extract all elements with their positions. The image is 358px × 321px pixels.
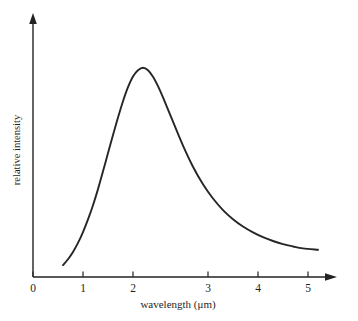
x-tick-label-1: 1 — [80, 282, 86, 294]
x-tick-label-3: 3 — [205, 282, 211, 294]
blackbody-spectrum-chart: 0 1 2 3 4 5 wavelength (μm) relative int… — [0, 0, 358, 321]
x-tick-label-5: 5 — [305, 282, 311, 294]
x-axis-title: wavelength (μm) — [140, 298, 216, 311]
x-tick-label-4: 4 — [255, 282, 261, 294]
x-tick-label-0: 0 — [30, 282, 36, 294]
x-tick-label-2: 2 — [130, 282, 136, 294]
y-axis-title: relative intensity — [11, 114, 22, 185]
chart-figure: 0 1 2 3 4 5 wavelength (μm) relative int… — [0, 0, 358, 321]
chart-background — [0, 0, 358, 321]
